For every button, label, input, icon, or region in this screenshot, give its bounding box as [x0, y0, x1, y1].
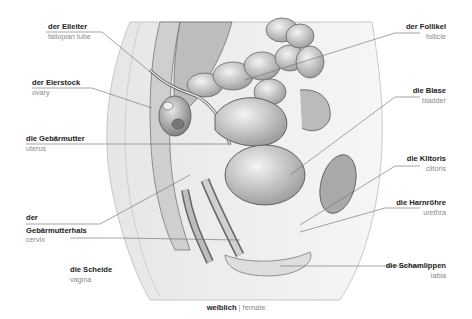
label-de: die Scheide — [70, 266, 112, 274]
label-labia: die Schamlippen labia — [386, 262, 446, 279]
label-follicle: der Follikel follicle — [406, 23, 446, 40]
label-de: die Harnröhre — [396, 199, 446, 207]
label-en: ovary — [32, 89, 80, 96]
label-en: vagina — [70, 276, 112, 283]
label-vagina: die Scheide vagina — [70, 266, 112, 283]
label-uterus: die Gebärmutter uterus — [26, 135, 85, 152]
label-en: cervix — [26, 236, 87, 243]
label-en: fallopian tube — [48, 33, 91, 40]
label-bladder: die Blase bladder — [413, 87, 446, 104]
label-clitoris: die Klitoris clitoris — [407, 155, 446, 172]
label-en: labia — [386, 272, 446, 279]
label-de: die Blase — [413, 87, 446, 95]
label-urethra: die Harnröhre urethra — [396, 199, 446, 216]
label-en: clitoris — [407, 165, 446, 172]
label-de: die Schamlippen — [386, 262, 446, 270]
label-de-line1: der — [26, 214, 87, 222]
label-de-line2: Gebärmutterhals — [26, 227, 87, 235]
label-en: urethra — [396, 209, 446, 216]
label-de: die Gebärmutter — [26, 135, 85, 143]
label-de: der Eierstock — [32, 79, 80, 87]
label-de: die Klitoris — [407, 155, 446, 163]
label-de: der Follikel — [406, 23, 446, 31]
label-en: uterus — [26, 145, 85, 152]
label-ovary: der Eierstock ovary — [32, 79, 80, 96]
label-de: der Eileiter — [48, 23, 91, 31]
label-cervix: der Gebärmutterhals cervix — [26, 214, 87, 243]
caption-de: weiblich — [207, 303, 237, 312]
caption: weiblich|female — [0, 303, 472, 312]
label-fallopian-tube: der Eileiter fallopian tube — [48, 23, 91, 40]
caption-en: female — [243, 303, 266, 312]
label-en: follicle — [406, 33, 446, 40]
label-en: bladder — [413, 97, 446, 104]
caption-separator: | — [239, 303, 241, 312]
